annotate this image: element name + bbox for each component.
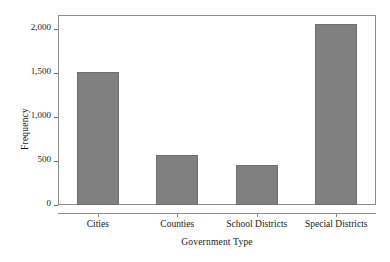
- bar: [156, 155, 198, 205]
- plot-area: [58, 15, 376, 205]
- y-axis-tick: 500: [0, 161, 58, 162]
- x-axis-line: [58, 213, 376, 214]
- y-tick-label: 0: [47, 198, 52, 208]
- y-tick-mark: [54, 205, 58, 206]
- y-axis-tick: 0: [0, 205, 58, 206]
- y-axis-tick: 2,000: [0, 29, 58, 30]
- y-axis-tick: 1,000: [0, 117, 58, 118]
- x-tick-mark: [177, 213, 178, 217]
- bar: [236, 165, 278, 205]
- y-tick-label: 1,000: [31, 110, 51, 120]
- y-axis-ticks: 05001,0001,5002,000: [0, 15, 58, 205]
- y-tick-label: 500: [38, 154, 52, 164]
- x-tick-mark: [257, 213, 258, 217]
- y-tick-label: 1,500: [31, 66, 51, 76]
- bar-chart: Frequency 05001,0001,5002,000 CitiesCoun…: [0, 0, 390, 262]
- x-axis-title: Government Type: [58, 237, 376, 247]
- x-tick-label: Cities: [87, 219, 109, 229]
- bar: [315, 24, 357, 205]
- x-tick-label: School Districts: [226, 219, 287, 229]
- x-tick-mark: [98, 213, 99, 217]
- y-axis-tick: 1,500: [0, 73, 58, 74]
- x-tick-label: Counties: [160, 219, 194, 229]
- x-tick-label: Special Districts: [305, 219, 368, 229]
- y-tick-label: 2,000: [31, 22, 51, 32]
- x-tick-mark: [336, 213, 337, 217]
- bar: [77, 72, 119, 205]
